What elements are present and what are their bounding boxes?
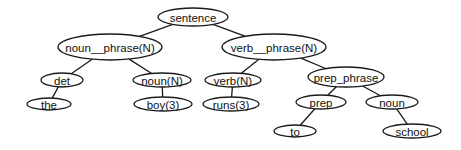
tree-node-noun-phrase: noun__phrase(N) (58, 34, 162, 60)
node-label: det (54, 75, 71, 87)
node-label: noun (379, 97, 405, 109)
node-label: runs(3) (213, 99, 250, 111)
node-label: noun__phrase(N) (65, 42, 155, 54)
tree-node-noun-n: noun(N) (133, 73, 191, 87)
node-label: the (41, 99, 57, 111)
edge-noun_phrase-to-det (71, 59, 92, 73)
node-label: boy(3) (147, 99, 180, 111)
edge-sentence-to-verb_phrase (213, 24, 245, 36)
node-label: prep_phrase (314, 72, 379, 84)
edge-prep_phrase-to-prep (328, 87, 337, 96)
edge-verb_phrase-to-prep_phrase (301, 58, 326, 68)
edge-prep_phrase-to-noun (363, 86, 381, 96)
tree-node-school: school (383, 124, 441, 138)
tree-node-det: det (41, 73, 83, 87)
node-label: prep (309, 97, 332, 109)
node-label: to (290, 126, 300, 138)
tree-node-noun: noun (366, 95, 418, 109)
tree-node-the: the (27, 98, 71, 111)
tree-node-to: to (274, 125, 316, 138)
tree-node-boy: boy(3) (134, 97, 192, 111)
edge-prep-to-to (300, 109, 315, 125)
tree-node-sentence: sentence (158, 8, 228, 26)
node-label: noun(N) (141, 75, 183, 87)
edge-noun_phrase-to-noun_n (129, 59, 152, 73)
edge-verb_phrase-to-verb_n (241, 59, 258, 73)
tree-node-runs: runs(3) (203, 97, 259, 111)
edge-noun-to-school (397, 109, 408, 124)
tree-nodes: sentencenoun__phrase(N)verb__phrase(N)de… (27, 8, 441, 138)
tree-node-verb-n: verb(N) (205, 73, 261, 87)
tree-node-prep-phrase: prep_phrase (308, 67, 384, 87)
parse-tree-diagram: sentencenoun__phrase(N)verb__phrase(N)de… (0, 0, 461, 150)
node-label: verb(N) (214, 75, 253, 87)
tree-node-verb-phrase: verb__phrase(N) (222, 34, 326, 60)
node-label: verb__phrase(N) (231, 42, 317, 54)
node-label: school (395, 126, 428, 138)
edge-verb_n-to-runs (232, 87, 233, 97)
edge-det-to-the (52, 87, 58, 98)
node-label: sentence (170, 12, 217, 24)
edge-sentence-to-noun_phrase (140, 24, 173, 36)
tree-node-prep: prep (296, 95, 346, 109)
